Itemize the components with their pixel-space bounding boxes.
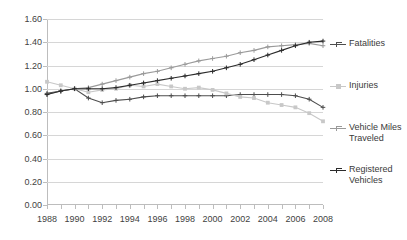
legend-item-injuries[interactable]: Injuries	[330, 80, 378, 91]
y-axis-tick-label: 1.00	[2, 85, 42, 94]
data-series-layer	[47, 19, 323, 205]
y-axis-tick-label: 0.80	[2, 108, 42, 117]
y-axis-tick-label: 0.20	[2, 178, 42, 187]
data-point-marker	[183, 87, 187, 91]
data-point-marker	[279, 43, 284, 48]
data-point-marker	[197, 86, 201, 90]
data-point-marker	[197, 71, 202, 76]
data-point-marker	[169, 66, 174, 71]
data-point-marker	[197, 93, 202, 98]
data-point-marker	[321, 119, 325, 123]
series-injuries	[45, 80, 325, 123]
data-point-marker	[169, 93, 174, 98]
data-point-marker	[224, 54, 229, 59]
x-axis-tick-mark	[309, 205, 310, 209]
x-axis-tick-label: 2008	[306, 215, 340, 224]
data-point-marker	[141, 95, 146, 100]
x-axis-tick-mark	[47, 205, 48, 209]
data-point-marker	[294, 105, 298, 109]
data-point-marker	[169, 76, 174, 81]
y-axis-tick-label: 1.20	[2, 62, 42, 71]
data-point-marker	[59, 89, 64, 94]
data-point-marker	[252, 48, 257, 53]
data-point-marker	[307, 111, 311, 115]
x-axis-tick-mark	[157, 205, 158, 209]
data-point-marker	[197, 59, 202, 64]
legend-marker-icon	[330, 40, 346, 49]
data-point-marker	[114, 98, 119, 103]
line-chart: 0.000.200.400.600.801.001.201.401.60 198…	[0, 0, 407, 240]
data-point-marker	[238, 50, 243, 55]
y-axis-tick-label: 0.40	[2, 155, 42, 164]
y-axis-tick-label: 0.60	[2, 131, 42, 140]
data-point-marker	[266, 45, 271, 50]
x-axis-tick-mark	[282, 205, 283, 209]
data-point-marker	[100, 100, 105, 105]
y-axis-tick-label: 0.00	[2, 201, 42, 210]
data-point-marker	[141, 71, 146, 76]
legend-marker-icon	[330, 166, 346, 175]
x-axis-tick-mark	[199, 205, 200, 209]
x-axis-tick-mark	[226, 205, 227, 209]
data-point-marker	[155, 93, 160, 98]
data-point-marker	[183, 62, 188, 67]
data-point-marker	[266, 92, 271, 97]
data-point-marker	[114, 78, 119, 83]
data-point-marker	[279, 48, 284, 53]
legend-item-label: Vehicle Miles Traveled	[349, 122, 407, 143]
data-point-marker	[59, 83, 63, 87]
x-axis-tick-mark	[185, 205, 186, 209]
data-point-marker	[252, 57, 257, 62]
data-point-marker	[183, 74, 188, 79]
data-point-marker	[321, 43, 326, 48]
x-axis-tick-mark	[268, 205, 269, 209]
data-point-marker	[210, 93, 215, 98]
data-point-marker	[210, 56, 215, 61]
data-point-marker	[128, 97, 133, 102]
data-point-marker	[224, 66, 229, 71]
data-point-marker	[225, 92, 229, 96]
data-point-marker	[279, 92, 284, 97]
data-point-marker	[169, 85, 173, 89]
data-point-marker	[252, 96, 256, 100]
x-axis-tick-mark	[144, 205, 145, 209]
x-axis-tick-mark	[61, 205, 62, 209]
data-point-marker	[293, 93, 298, 98]
x-axis-tick-mark	[75, 205, 76, 209]
legend-marker-icon	[330, 124, 346, 133]
legend-marker-icon	[330, 82, 346, 91]
data-point-marker	[211, 88, 215, 92]
y-axis-tick-label: 1.40	[2, 38, 42, 47]
data-point-marker	[128, 75, 133, 80]
x-axis-tick-mark	[88, 205, 89, 209]
x-axis-tick-mark	[240, 205, 241, 209]
legend-item-registered-vehicles[interactable]: Registered Vehicles	[330, 164, 407, 185]
data-point-marker	[321, 39, 326, 44]
data-point-marker	[155, 69, 160, 74]
data-point-marker	[45, 80, 49, 84]
data-point-marker	[307, 97, 312, 102]
legend-item-label: Fatalities	[349, 38, 385, 49]
data-point-marker	[321, 105, 326, 110]
data-point-marker	[210, 69, 215, 74]
data-point-marker	[238, 95, 242, 99]
legend-item-vehicle-miles-traveled[interactable]: Vehicle Miles Traveled	[330, 122, 407, 143]
data-point-marker	[238, 62, 243, 67]
data-point-marker	[183, 93, 188, 98]
x-axis-tick-mark	[254, 205, 255, 209]
x-axis-tick-mark	[116, 205, 117, 209]
data-point-marker	[100, 82, 105, 87]
data-point-marker	[266, 101, 270, 105]
x-axis-tick-mark	[171, 205, 172, 209]
legend-item-label: Injuries	[349, 80, 378, 91]
x-axis-tick-mark	[102, 205, 103, 209]
y-axis-tick-label: 1.60	[2, 15, 42, 24]
legend-item-fatalities[interactable]: Fatalities	[330, 38, 385, 49]
x-axis-tick-mark	[295, 205, 296, 209]
data-point-marker	[266, 53, 271, 58]
x-axis-tick-mark	[213, 205, 214, 209]
x-axis-tick-mark	[130, 205, 131, 209]
data-point-marker	[280, 103, 284, 107]
chart-legend: FatalitiesInjuriesVehicle Miles Traveled…	[330, 19, 407, 205]
legend-item-label: Registered Vehicles	[349, 164, 407, 185]
